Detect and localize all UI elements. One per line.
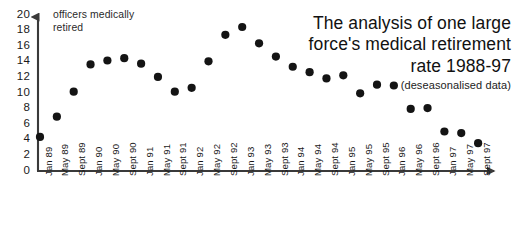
y-axis-tick-4: 4 bbox=[8, 133, 30, 145]
x-axis-tick-jan-92: Jan 92 bbox=[195, 147, 205, 176]
scatter-point bbox=[137, 60, 145, 68]
x-axis-tick-may-97: May 97 bbox=[465, 144, 475, 176]
scatter-point bbox=[36, 133, 44, 141]
y-axis-tick-14: 14 bbox=[8, 55, 30, 67]
chart-title-line-1: The analysis of one large bbox=[261, 13, 511, 34]
scatter-point bbox=[221, 31, 229, 39]
scatter-point bbox=[440, 127, 448, 135]
x-axis-tick-jan-96: Jan 96 bbox=[397, 147, 407, 176]
x-axis-tick-sept-95: Sept 95 bbox=[381, 142, 391, 176]
y-axis-tick-6: 6 bbox=[8, 118, 30, 130]
x-axis-tick-jan-90: Jan 90 bbox=[94, 147, 104, 176]
chart-container: 20181614121086420 Jan 89May 89Sept 89Jan… bbox=[0, 0, 522, 225]
x-axis-tick-may-94: May 94 bbox=[313, 144, 323, 176]
x-axis-tick-sept-96: Sept 96 bbox=[431, 142, 441, 176]
y-axis-tick-2: 2 bbox=[8, 149, 30, 161]
chart-title-line-3: rate 1988-97 bbox=[261, 56, 511, 77]
x-axis-tick-jan-91: Jan 91 bbox=[145, 147, 155, 176]
scatter-point bbox=[171, 88, 179, 96]
scatter-point bbox=[154, 73, 162, 81]
y-axis-tick-20: 20 bbox=[8, 9, 30, 21]
x-axis-tick-jan-95: Jan 95 bbox=[347, 147, 357, 176]
x-axis-tick-jan-94: Jan 94 bbox=[296, 147, 306, 176]
y-axis-tick-0: 0 bbox=[8, 165, 30, 177]
x-axis-tick-sept-91: Sept 91 bbox=[178, 142, 188, 176]
x-axis-tick-may-89: May 89 bbox=[60, 144, 70, 176]
scatter-point bbox=[204, 57, 212, 65]
x-axis-tick-may-90: May 90 bbox=[111, 144, 121, 176]
scatter-point bbox=[103, 56, 111, 64]
scatter-point bbox=[70, 88, 78, 96]
scatter-point bbox=[423, 104, 431, 112]
scatter-point bbox=[53, 113, 61, 121]
scatter-point bbox=[120, 54, 128, 62]
x-axis-tick-may-91: May 91 bbox=[162, 144, 172, 176]
scatter-point bbox=[407, 105, 415, 113]
x-axis-tick-sept-97: Sept 97 bbox=[482, 142, 492, 176]
chart-title-line-2: force's medical retirement bbox=[261, 34, 511, 55]
y-axis-tick-10: 10 bbox=[8, 87, 30, 99]
scatter-point bbox=[238, 23, 246, 31]
x-axis-tick-jan-89: Jan 89 bbox=[44, 147, 54, 176]
x-axis-tick-sept-92: Sept 92 bbox=[229, 142, 239, 176]
x-axis-tick-may-95: May 95 bbox=[364, 144, 374, 176]
series-annotation: officers medically retired bbox=[53, 9, 173, 34]
x-axis-tick-sept-89: Sept 89 bbox=[77, 142, 87, 176]
x-axis-tick-may-92: May 92 bbox=[212, 144, 222, 176]
x-axis-tick-jan-97: Jan 97 bbox=[448, 147, 458, 176]
x-axis-tick-may-96: May 96 bbox=[414, 144, 424, 176]
chart-title-block: The analysis of one large force's medica… bbox=[261, 13, 511, 91]
scatter-point bbox=[188, 84, 196, 92]
y-axis-tick-8: 8 bbox=[8, 102, 30, 114]
x-axis-tick-jan-93: Jan 93 bbox=[246, 147, 256, 176]
series-annotation-line1: officers medically bbox=[53, 9, 173, 22]
x-axis-tick-sept-94: Sept 94 bbox=[330, 142, 340, 176]
series-annotation-line2: retired bbox=[53, 22, 173, 35]
x-axis-tick-sept-90: Sept 90 bbox=[128, 142, 138, 176]
y-axis-tick-18: 18 bbox=[8, 24, 30, 36]
y-axis-tick-12: 12 bbox=[8, 71, 30, 83]
chart-subtitle: (deseasonalised data) bbox=[261, 79, 511, 91]
y-axis-tick-16: 16 bbox=[8, 40, 30, 52]
x-axis-tick-may-93: May 93 bbox=[263, 144, 273, 176]
scatter-point bbox=[86, 60, 94, 68]
scatter-point bbox=[457, 129, 465, 137]
x-axis-tick-sept-93: Sept 93 bbox=[280, 142, 290, 176]
